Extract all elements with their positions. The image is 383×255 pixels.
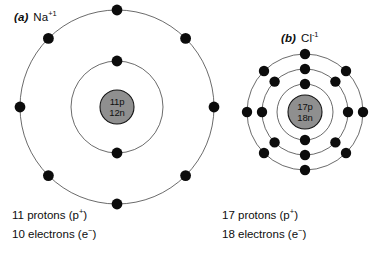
nucleus-neutrons-chloride: 18n	[297, 112, 312, 123]
electron-chloride-2-4	[330, 137, 340, 147]
caption-chloride-protons: 17 protons (p+)	[222, 204, 306, 223]
electron-chloride-2-7	[257, 107, 267, 117]
electron-sodium-2-7	[15, 102, 26, 113]
atom-diagram-sodium: 11p 12n	[0, 0, 236, 215]
electron-chloride-2-5	[300, 150, 310, 160]
electron-chloride-1-1	[300, 79, 310, 89]
electron-chloride-2-2	[330, 76, 340, 86]
electron-chloride-3-1	[300, 49, 310, 59]
electron-chloride-2-6	[269, 137, 279, 147]
atom-tag-sodium: (a)	[14, 11, 28, 23]
electron-sodium-1-1	[112, 56, 123, 67]
electron-chloride-2-3	[343, 107, 353, 117]
caption-chloride: 17 protons (p+) 18 electrons (e−)	[222, 204, 306, 242]
electron-chloride-1-2	[300, 135, 310, 145]
electron-sodium-1-2	[112, 148, 123, 159]
sodium-shell-svg: 11p 12n	[0, 0, 236, 215]
chloride-shell-svg: 17p 18n	[236, 48, 376, 178]
atom-label-chloride: (b)Cl-1	[281, 30, 318, 44]
species-charge-chloride: -1	[312, 30, 318, 39]
electron-sodium-2-5	[112, 199, 123, 210]
caption-sodium: 11 protons (p+) 10 electrons (e−)	[12, 204, 96, 242]
caption-chloride-electrons: 18 electrons (e−)	[222, 223, 306, 242]
electron-chloride-3-4	[341, 148, 351, 158]
caption-sodium-protons: 11 protons (p+)	[12, 204, 96, 223]
electron-sodium-2-8	[43, 33, 54, 44]
species-charge-sodium: +1	[48, 9, 56, 18]
electron-chloride-2-1	[300, 64, 310, 74]
atom-species-chloride: Cl-1	[301, 32, 318, 44]
electron-sodium-2-2	[180, 33, 191, 44]
electron-sodium-2-1	[112, 5, 123, 16]
species-symbol-chloride: Cl	[301, 32, 312, 44]
electron-chloride-3-6	[259, 148, 269, 158]
electron-chloride-2-8	[269, 76, 279, 86]
electron-sodium-2-4	[180, 170, 191, 181]
atom-label-sodium: (a)Na+1	[14, 9, 56, 23]
electron-chloride-3-7	[242, 107, 252, 117]
atom-tag-chloride: (b)	[281, 32, 296, 44]
atom-diagram-chloride: 17p 18n	[236, 48, 376, 178]
electron-sodium-2-3	[209, 102, 220, 113]
electron-chloride-3-2	[341, 66, 351, 76]
electron-chloride-3-5	[300, 165, 310, 175]
electron-chloride-3-3	[358, 107, 368, 117]
caption-sodium-electrons: 10 electrons (e−)	[12, 223, 96, 242]
species-symbol-sodium: Na	[33, 11, 48, 23]
nucleus-neutrons-sodium: 12n	[109, 107, 124, 118]
electron-sodium-2-6	[43, 170, 54, 181]
atom-species-sodium: Na+1	[33, 11, 56, 23]
bohr-model-figure: 11p 12n (a)Na+1 11 protons (p+) 10 elect…	[0, 0, 383, 255]
electron-chloride-3-8	[259, 66, 269, 76]
nucleus-protons-sodium: 11p	[110, 96, 125, 107]
nucleus-protons-chloride: 17p	[297, 101, 312, 112]
